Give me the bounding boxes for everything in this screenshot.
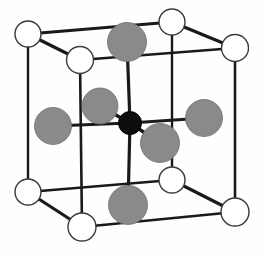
cube-edge-bottom-front [82,212,235,227]
cube-edge-top-front [80,48,235,60]
corner-front-top-left [67,47,94,74]
corner-back-bottom-left [15,179,41,205]
crystal-structure-figure [0,0,262,255]
ligand-bottom [109,186,148,225]
center-atom [119,112,142,135]
cube-edge-bottom-back [28,180,172,192]
corner-back-bottom-right [159,167,185,193]
ligand-top [108,23,147,62]
center-atom-group [119,112,142,135]
cube-edge-top-back [28,22,172,34]
cube-edge-vertical-front-left [80,60,82,227]
corner-back-top-right [159,9,185,35]
corner-front-top-right [222,35,249,62]
corner-front-bottom-right [221,198,249,226]
ligand-left [35,108,72,145]
unit-cell-diagram [0,0,262,255]
corner-front-bottom-left [68,213,96,241]
corner-back-top-left [15,21,41,47]
ligand-back-upper [82,88,118,124]
ligand-front-lower [141,124,180,163]
ligand-right [186,100,223,137]
